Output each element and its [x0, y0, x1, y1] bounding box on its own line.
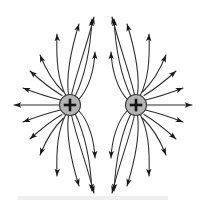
electric-field-diagram: Electric field lines of two like positiv… — [0, 0, 203, 206]
scan-smudge-bottom — [18, 196, 168, 200]
diagram-background — [0, 0, 203, 206]
right-charge-marker — [126, 95, 147, 116]
left-charge-marker — [60, 95, 81, 116]
field-diagram-canvas: Electric field lines of two like positiv… — [0, 0, 203, 206]
scan-artifact-layer — [18, 196, 168, 200]
